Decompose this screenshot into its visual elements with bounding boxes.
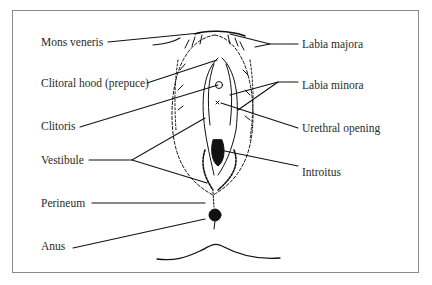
label-vestibule: Vestibule <box>41 154 84 166</box>
label-anus: Anus <box>41 240 65 252</box>
leader-clitoris <box>80 85 218 127</box>
label-labia-majora: Labia majora <box>302 38 363 50</box>
leader-lines <box>73 33 298 248</box>
label-urethral-opening: Urethral opening <box>302 122 380 134</box>
label-mons-veneris: Mons veneris <box>41 36 103 48</box>
leader-introitus <box>220 150 298 166</box>
leader-mons-veneris <box>108 33 200 42</box>
leader-vestibule <box>89 118 205 160</box>
label-perineum: Perineum <box>41 197 85 209</box>
label-introitus: Introitus <box>302 166 341 178</box>
leader-anus <box>73 219 205 248</box>
inner-structure <box>203 58 237 190</box>
leader-labia-minora <box>230 82 298 95</box>
label-clitoral-hood: Clitoral hood (prepuce) <box>41 77 149 89</box>
outer-contour <box>172 31 253 195</box>
label-labia-minora: Labia minora <box>302 79 364 91</box>
leader-urethral-opening <box>221 103 298 128</box>
label-clitoris: Clitoris <box>41 120 76 132</box>
